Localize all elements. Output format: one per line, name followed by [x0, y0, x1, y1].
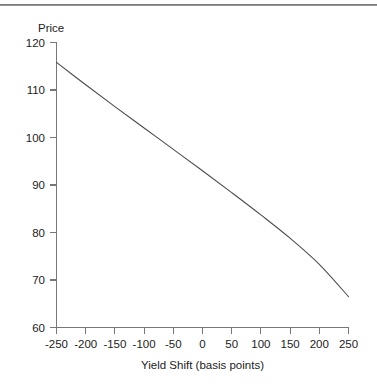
x-tick-label: -100: [133, 338, 156, 350]
x-axis-ticks: [57, 328, 349, 335]
y-axis-title: Price: [38, 22, 64, 34]
price-curve: [57, 62, 349, 296]
y-tick-label: 100: [26, 132, 45, 144]
y-tick-label: 90: [32, 179, 45, 191]
x-tick-label: 250: [339, 338, 358, 350]
y-axis-ticks: [50, 43, 57, 328]
x-axis-title: Yield Shift (basis points): [141, 359, 264, 371]
x-axis-tick-labels: -250 -200 -150 -100 -50 0 50 100 150 200…: [45, 338, 358, 350]
x-tick-label: 200: [310, 338, 329, 350]
x-tick-label: 50: [225, 338, 238, 350]
y-tick-label: 110: [27, 84, 45, 96]
y-tick-label: 70: [32, 274, 45, 286]
y-tick-label: 60: [32, 322, 45, 334]
x-tick-label: -200: [74, 338, 97, 350]
x-tick-label: 100: [251, 338, 270, 350]
x-tick-label: 0: [199, 338, 205, 350]
y-tick-label: 80: [32, 227, 45, 239]
x-tick-label: -150: [103, 338, 126, 350]
x-tick-label: 150: [281, 338, 300, 350]
x-tick-label: -250: [45, 338, 68, 350]
x-tick-label: -50: [165, 338, 182, 350]
y-axis-tick-labels: 120 110 100 90 80 70 60: [26, 37, 45, 334]
y-tick-label: 120: [26, 37, 45, 49]
price-yield-line-chart: Price 120 110 100 90 80 70 60: [0, 0, 377, 387]
chart-figure: Price 120 110 100 90 80 70 60: [0, 0, 377, 387]
